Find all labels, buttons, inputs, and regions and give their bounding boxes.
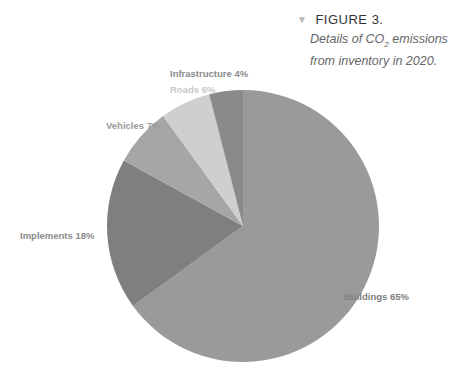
- pie-chart: [0, 0, 452, 386]
- slice-label-implements: Implements 18%: [20, 230, 94, 241]
- slice-label-infrastructure: Infrastructure 4%: [170, 68, 248, 79]
- slice-label-buildings: Buildings 65%: [344, 291, 409, 302]
- slice-label-vehicles: Vehicles 7%: [106, 120, 160, 131]
- slice-label-roads: Roads 6%: [170, 84, 215, 95]
